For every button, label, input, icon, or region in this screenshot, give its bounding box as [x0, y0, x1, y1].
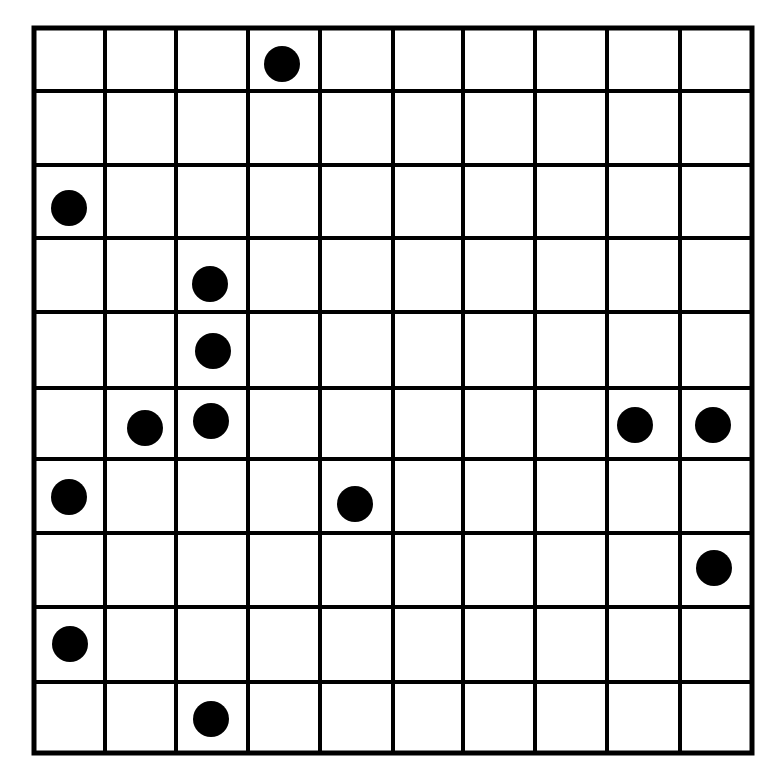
dot-marker	[52, 626, 88, 662]
dot-marker	[617, 407, 653, 443]
dot-marker	[195, 333, 231, 369]
grid-lines	[34, 28, 752, 753]
dot-marker	[193, 403, 229, 439]
dot-marker	[51, 479, 87, 515]
dot-marker	[193, 701, 229, 737]
grid-canvas	[0, 0, 781, 779]
dot-marker	[337, 486, 373, 522]
dot-grid-diagram	[0, 0, 781, 779]
dot-marker	[127, 410, 163, 446]
dot-marker	[695, 407, 731, 443]
dot-marker	[192, 266, 228, 302]
dot-marker	[264, 46, 300, 82]
dot-marker	[696, 550, 732, 586]
dot-marker	[51, 190, 87, 226]
